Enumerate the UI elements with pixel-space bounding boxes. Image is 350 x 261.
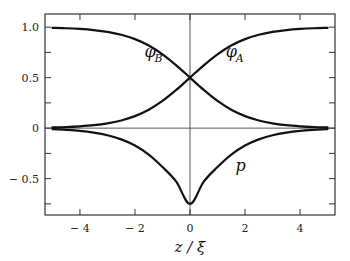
reference-lines — [45, 14, 335, 215]
curve-label-subscript: B — [154, 52, 163, 65]
y-tick-label: 0.5 — [22, 72, 40, 85]
curve-label-main: p — [235, 156, 245, 175]
curve-label-subscript: A — [235, 52, 244, 65]
curve-label-phi-B: φB — [145, 42, 163, 65]
x-tick-label: − 2 — [125, 222, 145, 235]
x-tick-label: 0 — [187, 222, 194, 235]
curve-label-phi-A: φA — [226, 42, 244, 65]
x-tick-label: 4 — [297, 222, 304, 235]
y-tick-label: − 0.5 — [9, 173, 39, 186]
y-tick-label: 0 — [32, 122, 39, 135]
x-axis-title: z / ξ — [174, 238, 206, 256]
y-tick-label: 1.0 — [22, 21, 40, 34]
chart: − 4− 20241.00.50− 0.5 φAφBp z / ξ — [0, 0, 350, 261]
x-tick-label: 2 — [242, 222, 249, 235]
curve-label-p: p — [235, 156, 245, 175]
x-tick-label: − 4 — [70, 222, 90, 235]
